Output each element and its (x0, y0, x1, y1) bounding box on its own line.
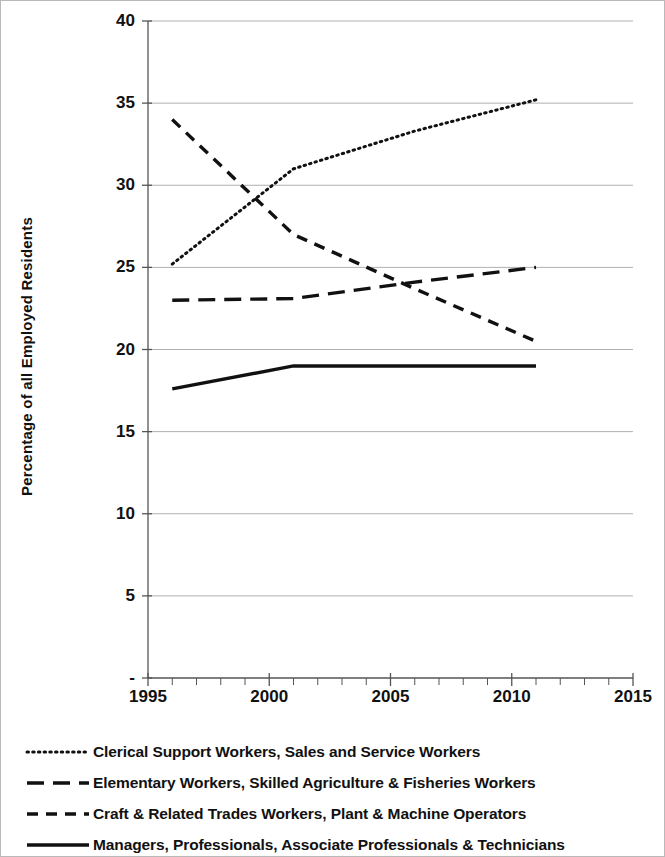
legend-item-3[interactable]: Managers, Professionals, Associate Profe… (21, 830, 565, 857)
legend-label-3: Managers, Professionals, Associate Profe… (93, 836, 565, 854)
solid-line-key (21, 836, 93, 854)
legend-item-1[interactable]: Elementary Workers, Skilled Agriculture … (21, 768, 536, 798)
plot-svg (1, 1, 665, 731)
x-tick-label-1995: 1995 (129, 687, 167, 707)
x-tick-label-2015: 2015 (614, 687, 652, 707)
series-line-2 (172, 120, 536, 342)
series-line-0 (172, 100, 536, 264)
long-dash-line-key (21, 774, 93, 792)
legend-item-2[interactable]: Craft & Related Trades Workers, Plant & … (21, 799, 526, 829)
series-line-1 (172, 267, 536, 300)
x-tick-label-2000: 2000 (250, 687, 288, 707)
line-chart-figure: Percentage of all Employed Residents -51… (1, 1, 665, 731)
chart-legend: Clerical Support Workers, Sales and Serv… (1, 729, 665, 857)
legend-label-2: Craft & Related Trades Workers, Plant & … (93, 805, 526, 823)
legend-label-0: Clerical Support Workers, Sales and Serv… (93, 743, 480, 761)
x-tick-label-2005: 2005 (372, 687, 410, 707)
short-dash-line-key (21, 805, 93, 823)
legend-item-0[interactable]: Clerical Support Workers, Sales and Serv… (21, 737, 480, 767)
plot-area (1, 1, 665, 731)
solid-line-key-glyph (21, 836, 93, 854)
x-tick-label-2010: 2010 (493, 687, 531, 707)
chart-page: Percentage of all Employed Residents -51… (0, 0, 665, 857)
dotted-line-key-glyph (21, 743, 93, 761)
legend-label-1: Elementary Workers, Skilled Agriculture … (93, 774, 536, 792)
dotted-line-key (21, 743, 93, 761)
long-dash-line-key-glyph (21, 774, 93, 792)
series-line-3 (172, 366, 536, 389)
short-dash-line-key-glyph (21, 805, 93, 823)
